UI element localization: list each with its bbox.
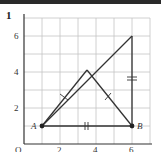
y-tick-2: 2 xyxy=(14,103,19,113)
point-A-label: A xyxy=(30,121,37,131)
point-A xyxy=(40,124,45,129)
segments xyxy=(42,36,132,126)
segment-AD xyxy=(42,70,87,126)
segment-DB xyxy=(87,70,132,126)
origin-label: O xyxy=(15,145,22,152)
segment-AC xyxy=(42,36,132,126)
y-tick-6: 6 xyxy=(14,31,19,41)
x-tick-6: 6 xyxy=(129,145,134,152)
coordinate-diagram: O 2 4 6 2 4 6 A B xyxy=(0,0,161,152)
x-tick-2: 2 xyxy=(57,145,62,152)
point-B xyxy=(130,124,135,129)
y-tick-4: 4 xyxy=(14,67,19,77)
x-tick-4: 4 xyxy=(93,145,98,152)
point-B-label: B xyxy=(137,121,143,131)
